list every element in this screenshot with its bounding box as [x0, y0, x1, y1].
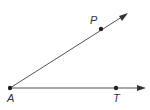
ray-ap-line — [10, 15, 125, 88]
point-p — [99, 27, 103, 31]
point-t — [114, 86, 118, 90]
angle-diagram — [0, 0, 150, 110]
label-t: T — [113, 93, 120, 104]
ray-ap-arrow-icon — [119, 13, 128, 21]
ray-at-arrow-icon — [137, 85, 146, 91]
point-a — [8, 86, 12, 90]
label-p: P — [90, 15, 97, 26]
label-a: A — [7, 93, 14, 104]
